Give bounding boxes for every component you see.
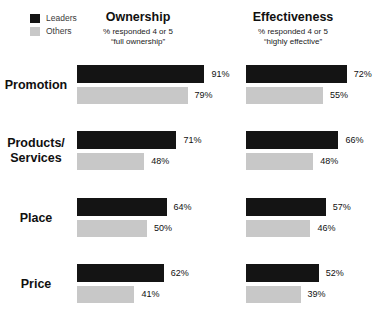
value-label: 71% [183,136,201,145]
leaders-swatch [30,14,40,23]
value-label: 41% [141,290,159,299]
bar-effectiveness-price-leaders [246,264,319,282]
legend-label-others: Others [46,27,72,36]
column-header-ownership: Ownership % responded 4 or 5 “full owner… [70,11,206,48]
ownership-title: Ownership [70,11,206,25]
category-label-price: Price [4,264,68,304]
value-label: 64% [174,203,192,212]
bar-ownership-products-services-others [77,153,144,170]
effectiveness-subtitle-line1: % responded 4 or 5 [234,27,352,37]
category-label-place: Place [4,198,68,238]
value-label: 39% [308,290,326,299]
bar-ownership-place-leaders [77,198,167,216]
value-label: 91% [211,70,229,79]
bar-effectiveness-place-others [246,220,310,237]
bar-effectiveness-price-others [246,286,301,303]
effectiveness-subtitle-line2: “highly effective” [234,37,352,47]
value-label: 66% [345,136,363,145]
bar-ownership-products-services-leaders [77,131,176,149]
bar-effectiveness-place-leaders [246,198,326,216]
bar-ownership-promotion-others [77,87,188,104]
value-label: 50% [154,224,172,233]
effectiveness-title: Effectiveness [234,11,352,25]
bar-effectiveness-promotion-others [246,87,323,104]
value-label: 48% [320,157,338,166]
bar-ownership-place-others [77,220,147,237]
column-header-effectiveness: Effectiveness % responded 4 or 5 “highly… [234,11,352,48]
bar-effectiveness-promotion-leaders [246,65,347,83]
bar-effectiveness-products-services-leaders [246,131,338,149]
value-label: 55% [330,91,348,100]
value-label: 46% [317,224,335,233]
bar-ownership-promotion-leaders [77,65,204,83]
ownership-subtitle-line2: “full ownership” [70,37,206,47]
value-label: 52% [326,269,344,278]
category-label-products-services: Products/Services [4,131,68,171]
value-label: 79% [195,91,213,100]
value-label: 48% [151,157,169,166]
category-label-promotion: Promotion [4,65,68,105]
ownership-subtitle-line1: % responded 4 or 5 [70,27,206,37]
value-label: 57% [333,203,351,212]
chart-canvas: Leaders Others Ownership % responded 4 o… [0,0,373,310]
value-label: 62% [171,269,189,278]
value-label: 72% [354,70,372,79]
bar-ownership-price-others [77,286,134,303]
bar-effectiveness-products-services-others [246,153,313,170]
others-swatch [30,27,40,36]
bar-ownership-price-leaders [77,264,164,282]
